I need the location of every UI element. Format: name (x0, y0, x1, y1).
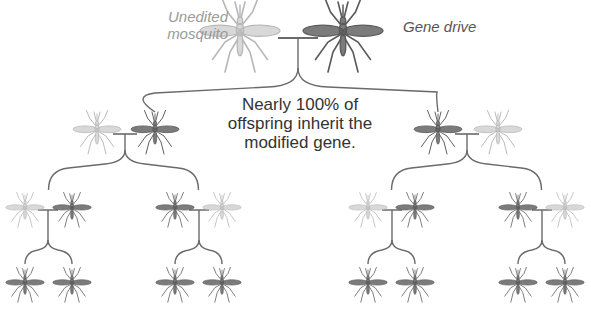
unedited-mosquito-icon (349, 192, 387, 227)
unedited-mosquito-icon (6, 192, 44, 227)
gene-drive-mosquito-icon (414, 111, 462, 155)
gene-drive-mosquito-icon (156, 267, 194, 302)
connector-line (368, 240, 392, 264)
gene-drive-mosquito-icon (303, 0, 383, 72)
gene-drive-mosquito-icon (131, 111, 179, 155)
gene-drive-mosquito-icon (6, 267, 44, 302)
connector-line (25, 240, 48, 264)
connector-line (48, 240, 72, 264)
connector-line (125, 150, 199, 190)
gene-drive-label: Gene drive (403, 18, 476, 35)
gene-drive-mosquito-icon (203, 267, 241, 302)
unedited-mosquito-icon (546, 192, 584, 227)
connector-line (467, 150, 542, 190)
unedited-mosquito-label: Unedited mosquito (128, 8, 228, 42)
gene-drive-mosquito-icon (156, 192, 194, 227)
caption-line3: modified gene. (205, 133, 395, 152)
diagram-artwork (0, 0, 591, 313)
connector-line (518, 240, 542, 264)
gene-drive-mosquito-icon (499, 192, 537, 227)
unedited-mosquito-icon (474, 111, 522, 155)
inheritance-caption: Nearly 100% of offspring inherit the mod… (205, 95, 395, 152)
gene-drive-mosquito-icon (396, 267, 434, 302)
unedited-mosquito-icon (203, 192, 241, 227)
unedited-mosquito-icon (73, 111, 121, 155)
gene-drive-mosquito-icon (53, 267, 91, 302)
gene-drive-mosquito-icon (396, 192, 434, 227)
connector-line (542, 240, 565, 264)
gene-drive-mosquito-icon (349, 267, 387, 302)
gene-drive-mosquito-icon (499, 267, 537, 302)
connector-line (175, 240, 199, 264)
gene-drive-mosquito-icon (546, 267, 584, 302)
unedited-label-line2: mosquito (128, 25, 228, 42)
connector-line (392, 240, 415, 264)
connector-line (392, 150, 468, 190)
connector-line (49, 150, 126, 190)
caption-line2: offspring inherit the (205, 114, 395, 133)
caption-line1: Nearly 100% of (205, 95, 395, 114)
connector-line (199, 240, 222, 264)
unedited-label-line1: Unedited (128, 8, 228, 25)
gene-drive-diagram: Unedited mosquito Gene drive Nearly 100%… (0, 0, 591, 313)
gene-drive-mosquito-icon (53, 192, 91, 227)
